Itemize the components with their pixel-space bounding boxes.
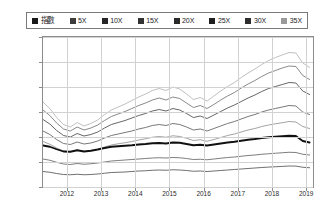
axis-labels: 05,00010,00015,00020,00025,00030,0002012…	[0, 0, 333, 213]
legend-item-5X[interactable]: 5X	[70, 17, 87, 24]
legend-item-30X[interactable]: 30X	[245, 17, 266, 24]
legend-item-25X[interactable]: 25X	[209, 17, 230, 24]
legend-item-label: 15X	[146, 17, 158, 24]
legend-item-label: 20X	[182, 17, 194, 24]
legend-item-10X[interactable]: 10X	[102, 17, 123, 24]
y-axis-tick-mark	[39, 162, 42, 163]
legend-item-15X[interactable]: 15X	[138, 17, 159, 24]
x-axis-tick-mark	[204, 188, 205, 191]
y-axis-tick-mark	[39, 62, 42, 63]
x-axis-tick-label: 2012	[60, 190, 74, 197]
legend-item-label: 35X	[290, 17, 302, 24]
y-axis-tick-mark	[39, 187, 42, 188]
x-axis-tick-mark	[306, 188, 307, 191]
legend-item-35X[interactable]: 35X	[281, 17, 302, 24]
x-axis-tick-label: 2014	[128, 190, 142, 197]
legend-swatch-icon	[70, 18, 76, 24]
x-axis-tick-mark	[238, 188, 239, 191]
legend-item-label: 30X	[254, 17, 266, 24]
x-axis-tick-mark	[169, 188, 170, 191]
legend-item-label: 10X	[110, 17, 122, 24]
x-axis-tick-label: 2013	[94, 190, 108, 197]
y-axis-tick-mark	[39, 137, 42, 138]
x-axis-tick-mark	[272, 188, 273, 191]
y-axis-tick-mark	[39, 37, 42, 38]
x-axis-tick-mark	[135, 188, 136, 191]
legend-item-label: 指數	[41, 17, 55, 25]
chart-legend: 指數5X10X15X20X25X30X35X	[26, 12, 308, 29]
x-axis-tick-label: 2017	[231, 190, 245, 197]
x-axis-tick-mark	[67, 188, 68, 191]
x-axis-tick-label: 2015	[162, 190, 176, 197]
legend-swatch-icon	[138, 18, 144, 24]
legend-swatch-icon	[32, 18, 38, 24]
x-axis-tick-label: 2016	[196, 190, 210, 197]
legend-item-label: 25X	[218, 17, 230, 24]
legend-swatch-icon	[281, 18, 287, 24]
legend-swatch-icon	[245, 18, 251, 24]
legend-swatch-icon	[174, 18, 180, 24]
legend-item-20X[interactable]: 20X	[174, 17, 195, 24]
legend-swatch-icon	[209, 18, 215, 24]
x-axis-tick-label: 2018	[265, 190, 279, 197]
x-axis-tick-label: 2019	[299, 190, 313, 197]
legend-swatch-icon	[102, 18, 108, 24]
y-axis-tick-mark	[39, 87, 42, 88]
legend-item-label: 5X	[78, 17, 86, 24]
legend-item-指數[interactable]: 指數	[32, 17, 54, 25]
chart-screenshot: 指數5X10X15X20X25X30X35X 05,00010,00015,00…	[0, 0, 333, 213]
x-axis-tick-mark	[101, 188, 102, 191]
y-axis-tick-mark	[39, 112, 42, 113]
